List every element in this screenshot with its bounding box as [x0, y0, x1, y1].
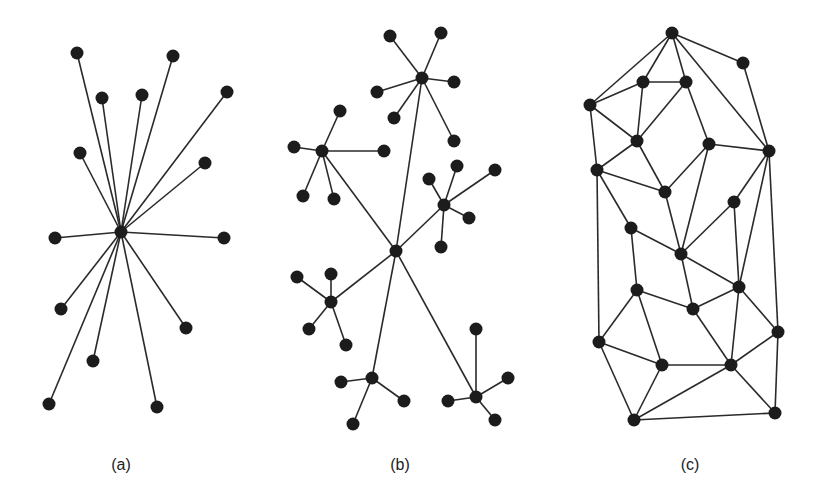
- graph-edge: [739, 151, 769, 287]
- graph-edge: [709, 144, 769, 151]
- graph-edge: [93, 232, 121, 361]
- graph-node: [584, 99, 597, 112]
- graph-edge: [599, 290, 637, 342]
- graph-node: [656, 359, 669, 372]
- graph-node: [625, 222, 638, 235]
- graph-node: [221, 86, 234, 99]
- graph-edge: [681, 254, 739, 287]
- graph-node: [448, 76, 461, 89]
- graph-edge: [693, 287, 739, 309]
- graph-edge: [396, 78, 422, 251]
- graph-node: [71, 47, 84, 60]
- graph-edge: [597, 170, 599, 342]
- graph-node: [470, 323, 483, 336]
- graph-edge: [444, 170, 495, 205]
- panel-b-hierarchical-graph: [288, 27, 515, 431]
- graph-edge: [731, 365, 775, 413]
- caption-a: (a): [111, 456, 131, 474]
- caption-b: (b): [390, 456, 410, 474]
- graph-edge: [353, 378, 372, 424]
- graph-node: [687, 303, 700, 316]
- graph-edge: [331, 302, 346, 345]
- graph-node: [451, 160, 464, 173]
- graph-edge: [377, 78, 422, 92]
- graph-edge: [637, 290, 662, 365]
- graph-edge: [769, 151, 778, 332]
- graph-node: [763, 145, 776, 158]
- graph-node: [438, 199, 451, 212]
- graph-node: [115, 226, 128, 239]
- graph-edge: [631, 228, 637, 290]
- graph-edge: [681, 202, 734, 254]
- graph-node: [703, 138, 716, 151]
- graph-node: [772, 326, 785, 339]
- graph-edge: [121, 95, 142, 232]
- graph-edge: [731, 332, 778, 365]
- graph-node: [680, 76, 693, 89]
- graph-edge: [734, 202, 739, 287]
- graph-edge: [422, 78, 454, 141]
- graph-edge: [394, 78, 422, 118]
- graph-edge: [303, 151, 322, 196]
- graph-edge: [643, 33, 672, 82]
- graph-edge: [686, 82, 709, 144]
- graph-node: [728, 196, 741, 209]
- graph-node: [631, 135, 644, 148]
- graph-edge: [372, 251, 396, 378]
- graph-edge: [121, 163, 205, 232]
- graph-edge: [739, 287, 778, 332]
- graph-node: [347, 418, 360, 431]
- graph-node: [199, 157, 212, 170]
- graph-node: [96, 92, 109, 105]
- graph-node: [340, 339, 353, 352]
- graph-edge: [322, 111, 340, 151]
- graph-edge: [422, 33, 441, 78]
- graph-edge: [672, 33, 743, 63]
- graph-node: [390, 245, 403, 258]
- graph-node: [316, 145, 329, 158]
- graph-edge: [590, 82, 643, 105]
- graph-node: [725, 359, 738, 372]
- graph-node: [435, 27, 448, 40]
- graph-node: [328, 193, 341, 206]
- graph-edge: [693, 309, 731, 365]
- graph-node: [218, 232, 231, 245]
- graph-node: [371, 86, 384, 99]
- graph-figure: [0, 0, 823, 501]
- graph-node: [180, 322, 193, 335]
- graph-node: [388, 112, 401, 125]
- graph-node: [637, 76, 650, 89]
- graph-edge: [637, 290, 693, 309]
- graph-node: [151, 401, 164, 414]
- graph-edge: [775, 332, 778, 413]
- graph-node: [416, 72, 429, 85]
- panel-a-star-graph: [43, 47, 234, 414]
- graph-node: [489, 414, 502, 427]
- graph-node: [378, 145, 391, 158]
- graph-edge: [55, 232, 121, 238]
- graph-node: [384, 30, 397, 43]
- graph-node: [325, 296, 338, 309]
- graph-node: [463, 212, 476, 225]
- graph-node: [666, 27, 679, 40]
- graph-edge: [731, 287, 739, 365]
- graph-node: [737, 57, 750, 70]
- graph-edge: [597, 141, 637, 170]
- graph-node: [470, 391, 483, 404]
- graph-node: [297, 190, 310, 203]
- graph-edge: [743, 63, 769, 151]
- graph-edge: [672, 33, 769, 151]
- graph-node: [435, 241, 448, 254]
- graph-edge: [590, 105, 637, 141]
- graph-edge: [590, 33, 672, 105]
- graph-node: [659, 186, 672, 199]
- graph-edge: [637, 82, 686, 141]
- graph-node: [291, 271, 304, 284]
- graph-edge: [590, 105, 597, 170]
- graph-node: [55, 303, 68, 316]
- graph-node: [631, 284, 644, 297]
- graph-node: [366, 372, 379, 385]
- graph-node: [334, 105, 347, 118]
- panel-c-mesh-graph: [584, 27, 785, 427]
- graph-edge: [634, 413, 775, 420]
